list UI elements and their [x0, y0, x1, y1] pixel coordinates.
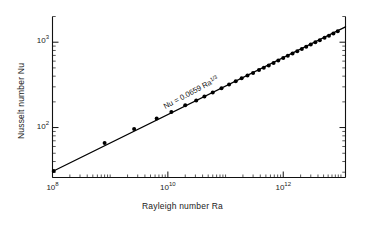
rayleigh-nusselt-chart: Nu = 0.0659 Ra1/3 Rayleigh number Ra Nus… [0, 0, 365, 227]
tick-exponent: 3 [46, 35, 49, 41]
y-axis-title: Nusselt number Nu [16, 26, 26, 176]
data-point [155, 116, 159, 120]
data-point [202, 95, 206, 99]
data-point [336, 29, 340, 33]
data-point [281, 56, 285, 60]
data-point [327, 34, 331, 38]
data-point [245, 74, 249, 78]
tick-mantissa: 10 [160, 183, 169, 192]
data-point [240, 76, 244, 80]
data-point [309, 43, 313, 47]
tick-mantissa: 10 [37, 122, 46, 131]
y-axis-ticks [53, 17, 59, 173]
data-point [52, 169, 56, 173]
data-point [257, 68, 261, 72]
data-point [219, 86, 223, 90]
data-point [234, 79, 238, 83]
data-point [132, 127, 136, 131]
data-point [267, 63, 271, 67]
data-point [313, 40, 317, 44]
data-point [304, 45, 308, 49]
data-point [211, 90, 215, 94]
data-point [323, 36, 327, 40]
x-tick-label: 1012 [263, 183, 303, 192]
tick-mantissa: 10 [275, 183, 284, 192]
axes-frame [53, 17, 346, 178]
data-point [331, 32, 335, 36]
data-point [272, 61, 276, 65]
data-point [291, 51, 295, 55]
data-point [276, 59, 280, 63]
x-axis-title: Rayleigh number Ra [0, 201, 365, 211]
x-tick-label: 1010 [148, 183, 188, 192]
right-axis-ticks [340, 17, 346, 173]
data-point [227, 82, 231, 86]
tick-exponent: 10 [169, 181, 176, 187]
plot-canvas: Nu = 0.0659 Ra1/3 [0, 0, 365, 227]
tick-exponent: 12 [284, 181, 291, 187]
tick-exponent: 2 [46, 120, 49, 126]
data-point [194, 98, 198, 102]
data-point [169, 110, 173, 114]
data-point [300, 47, 304, 51]
data-points [52, 29, 340, 173]
tick-exponent: 8 [55, 181, 58, 187]
data-point [262, 66, 266, 70]
data-point [318, 38, 322, 42]
tick-mantissa: 10 [46, 183, 55, 192]
x-tick-label: 108 [33, 183, 73, 192]
data-point [103, 141, 107, 145]
x-axis-ticks [53, 172, 341, 178]
y-tick-label: 103 [28, 36, 49, 45]
y-tick-label: 102 [28, 122, 49, 131]
tick-mantissa: 10 [37, 36, 46, 45]
data-point [183, 103, 187, 107]
data-point [251, 71, 255, 75]
data-point [295, 49, 299, 53]
data-point [286, 54, 290, 58]
